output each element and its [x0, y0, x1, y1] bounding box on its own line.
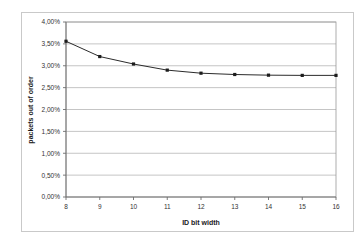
- y-axis-title: packets out of order: [27, 76, 35, 144]
- y-tick-label: 2,50%: [42, 84, 61, 91]
- x-tick-label: 16: [332, 203, 340, 210]
- x-tick-label: 10: [130, 203, 138, 210]
- y-tick-label: 0,50%: [42, 172, 61, 179]
- x-tick-label: 13: [231, 203, 239, 210]
- line-chart: 0,00%0,50%1,00%1,50%2,00%2,50%3,00%3,50%…: [0, 0, 362, 248]
- x-axis-title: ID bit width: [182, 219, 220, 226]
- chart-figure: 0,00%0,50%1,00%1,50%2,00%2,50%3,00%3,50%…: [0, 0, 362, 248]
- y-tick-label: 1,50%: [42, 128, 61, 135]
- y-tick-label: 3,00%: [42, 62, 61, 69]
- x-axis-ticks: 8910111213141516: [64, 197, 340, 210]
- x-tick-label: 12: [197, 203, 205, 210]
- y-tick-label: 2,00%: [42, 106, 61, 113]
- x-tick-label: 11: [164, 203, 171, 210]
- y-tick-label: 1,00%: [42, 150, 61, 157]
- y-axis-ticks: 0,00%0,50%1,00%1,50%2,00%2,50%3,00%3,50%…: [42, 18, 66, 200]
- y-tick-label: 4,00%: [42, 18, 61, 25]
- y-tick-label: 3,50%: [42, 40, 61, 47]
- x-tick-label: 8: [64, 203, 68, 210]
- y-tick-label: 0,00%: [42, 193, 61, 200]
- x-tick-label: 15: [299, 203, 307, 210]
- x-tick-label: 9: [98, 203, 102, 210]
- x-tick-label: 14: [265, 203, 273, 210]
